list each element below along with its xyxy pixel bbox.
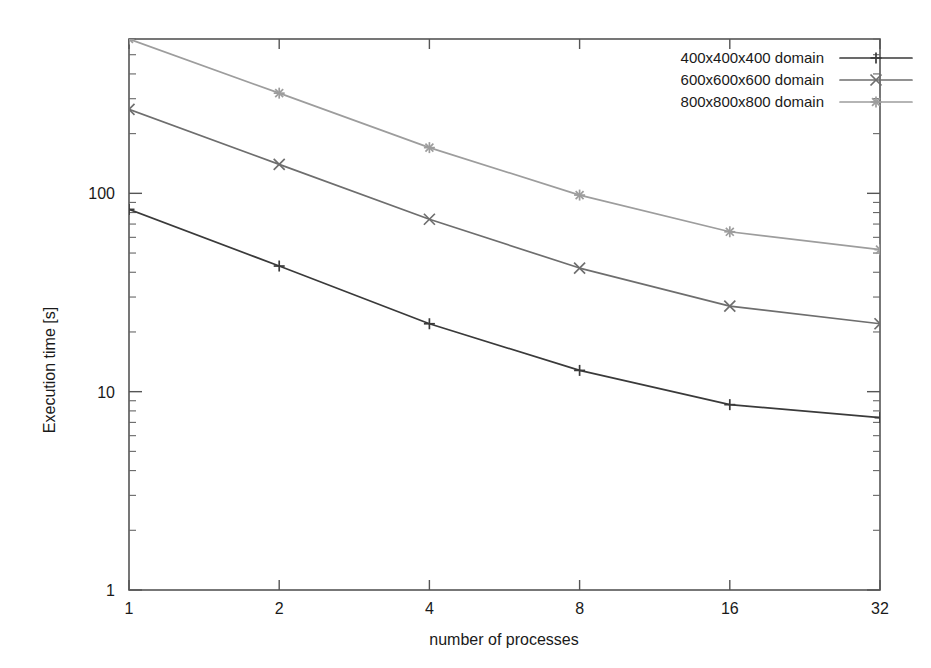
x-tick-label: 2 [275,600,284,617]
x-tick-label: 4 [425,600,434,617]
y-tick-label: 1 [106,582,115,599]
x-tick-label: 1 [125,600,134,617]
data-point-marker-2 [724,226,735,237]
execution-time-scaling-chart: 110100 12481632 number of processes Exec… [0,0,931,668]
legend-label-2: 800x800x800 domain [681,93,824,110]
legend-label-1: 600x600x600 domain [681,71,824,88]
legend-label-0: 400x400x400 domain [681,49,824,66]
y-tick-label: 100 [88,185,115,202]
y-tick-label: 10 [97,384,115,401]
x-axis-title: number of processes [429,631,578,648]
data-point-marker-2 [574,190,585,201]
x-tick-label: 8 [575,600,584,617]
data-point-marker-2 [424,142,435,153]
data-point-marker-legend-2 [871,97,882,108]
x-tick-label: 32 [871,600,889,617]
x-tick-label: 16 [721,600,739,617]
data-point-marker-2 [274,88,285,99]
y-axis-title: Execution time [s] [41,307,58,433]
legend: 400x400x400 domain600x600x600 domain800x… [681,49,912,110]
